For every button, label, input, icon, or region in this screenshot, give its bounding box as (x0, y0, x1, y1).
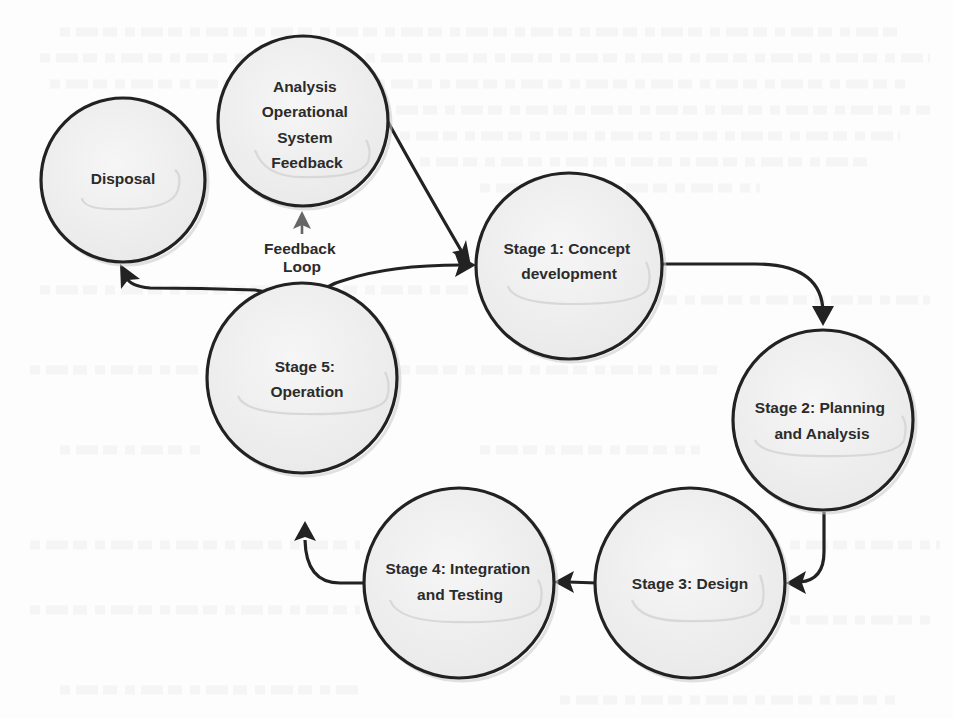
node-stage1: Stage 1: Concept development (476, 173, 665, 362)
node-stage3: Stage 3: Design (595, 488, 788, 681)
edge-stage3-to-stage4 (568, 582, 597, 583)
node-stage2: Stage 2: Planning and Analysis (733, 330, 916, 513)
node-disposal: Disposal (41, 98, 208, 265)
feedback-loop-label: Feedback Loop (264, 240, 340, 275)
lifecycle-diagram: Feedback Loop Disposal Analysis Operatio… (0, 0, 953, 719)
node-stage5: Stage 5: Operation (207, 283, 400, 476)
nodes: Disposal Analysis Operational System Fee… (41, 36, 916, 681)
node-analysis-feedback: Analysis Operational System Feedback (218, 36, 391, 209)
arrowhead-icon (294, 521, 316, 541)
node-stage4: Stage 4: Integration and Testing (364, 488, 557, 681)
node-label-disposal: Disposal (91, 170, 156, 187)
edge-stage1-to-stage2 (662, 264, 823, 312)
edge-analysis-to-stage1 (388, 122, 462, 252)
arrowhead-icon (812, 306, 834, 326)
node-label-stage3: Stage 3: Design (632, 575, 748, 592)
